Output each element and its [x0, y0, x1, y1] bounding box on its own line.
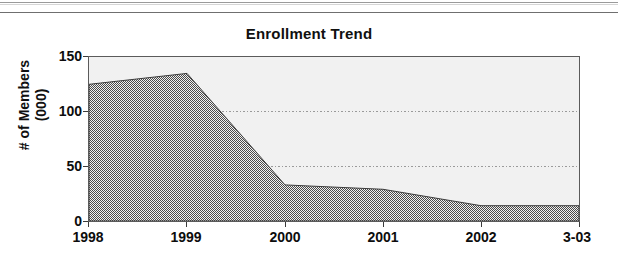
- x-tick-mark-2000: [285, 222, 286, 227]
- x-tick-mark-1999: [186, 222, 187, 227]
- x-tick-label-2000: 2000: [250, 229, 320, 245]
- chart-title: Enrollment Trend: [0, 25, 618, 42]
- y-tick-label-150: 150: [36, 49, 82, 63]
- x-tick-mark-1998: [88, 222, 89, 227]
- x-tick-label-2002: 2002: [446, 229, 516, 245]
- y-tick-label-100: 100: [36, 104, 82, 118]
- x-tick-label-2001: 2001: [348, 229, 418, 245]
- y-axis-tick-labels: 150 100 50 0: [34, 0, 82, 262]
- y-axis-label-line1: # of Members: [16, 60, 33, 150]
- y-tick-label-0: 0: [36, 214, 82, 228]
- page-rule-top: [0, 2, 618, 3]
- x-tick-label-3-03: 3-03: [542, 229, 612, 245]
- x-tick-mark-2001: [383, 222, 384, 227]
- x-tick-label-1998: 1998: [53, 229, 123, 245]
- chart-page: Enrollment Trend # of Members (000) 150 …: [0, 0, 618, 262]
- page-rule-second: [0, 12, 618, 13]
- area-chart-svg: [89, 57, 579, 221]
- page-rule-faint: [0, 4, 618, 5]
- y-tick-label-50: 50: [36, 159, 82, 173]
- x-tick-label-1999: 1999: [151, 229, 221, 245]
- x-tick-mark-2002: [481, 222, 482, 227]
- plot-area: [88, 56, 580, 222]
- x-tick-mark-3-03: [579, 222, 580, 227]
- area-series: [89, 73, 579, 221]
